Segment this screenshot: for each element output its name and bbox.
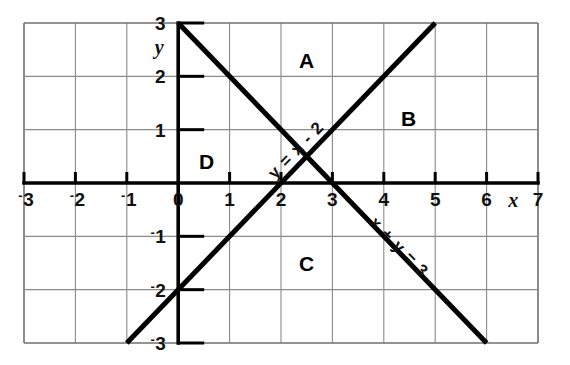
x-tick-label--1: -1: [121, 189, 136, 208]
y-tick-label-1: 1: [155, 120, 166, 139]
y-tick-label-2: 2: [155, 67, 166, 86]
y-tick-label--3: -3: [150, 333, 165, 352]
y-tick-label-3: 3: [155, 14, 166, 33]
y-tick-label--2: -2: [150, 280, 165, 299]
x-tick-label-5: 5: [430, 190, 441, 209]
x-tick-label-2: 2: [276, 190, 287, 209]
y-tick-label--1: -1: [150, 227, 165, 246]
x-tick-label-7: 7: [533, 190, 544, 209]
x-tick-label-1: 1: [224, 190, 235, 209]
region-label-c: C: [299, 253, 314, 274]
x-tick-label--2: -2: [70, 189, 85, 208]
region-label-b: B: [401, 107, 416, 128]
x-tick-label-4: 4: [379, 190, 390, 209]
coordinate-plane-svg: [0, 0, 570, 365]
region-label-a: A: [299, 50, 314, 71]
x-tick-label-0: 0: [173, 190, 184, 209]
x-tick-label--3: -3: [18, 189, 33, 208]
y-axis-name: y: [155, 37, 164, 57]
x-tick-label-6: 6: [481, 190, 492, 209]
x-axis-name: x: [508, 190, 518, 210]
graph-figure: -3-2-101234567321-1-2-3 x y A B C D y = …: [0, 0, 570, 365]
x-tick-label-3: 3: [327, 190, 338, 209]
region-label-d: D: [199, 150, 214, 171]
